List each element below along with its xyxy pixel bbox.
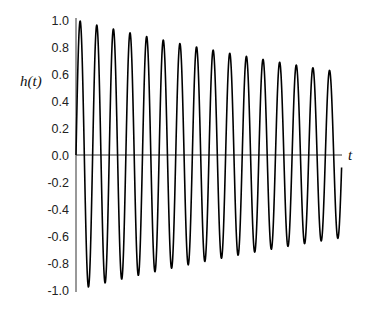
h-of-t-curve <box>76 21 342 287</box>
y-tick-label: -0.2 <box>47 176 69 190</box>
y-axis-label: h(t) <box>20 73 42 90</box>
y-tick-label: 0.2 <box>52 122 69 136</box>
y-tick-label: -0.6 <box>47 230 69 244</box>
chart: 1.00.80.60.40.20.0-0.2-0.4-0.6-0.8-1.0 h… <box>0 0 370 311</box>
y-tick-label: -1.0 <box>47 284 69 298</box>
y-tick-label: -0.8 <box>47 257 69 271</box>
x-axis-label: t <box>348 147 353 163</box>
y-tick-label: 0.4 <box>52 95 69 109</box>
y-tick-label: 0.6 <box>52 68 69 82</box>
y-tick-label: 0.0 <box>52 149 69 163</box>
y-tick-label: -0.4 <box>47 203 69 217</box>
y-tick-label: 1.0 <box>52 14 69 28</box>
y-tick-label: 0.8 <box>52 41 69 55</box>
y-tick-labels: 1.00.80.60.40.20.0-0.2-0.4-0.6-0.8-1.0 <box>47 14 69 298</box>
